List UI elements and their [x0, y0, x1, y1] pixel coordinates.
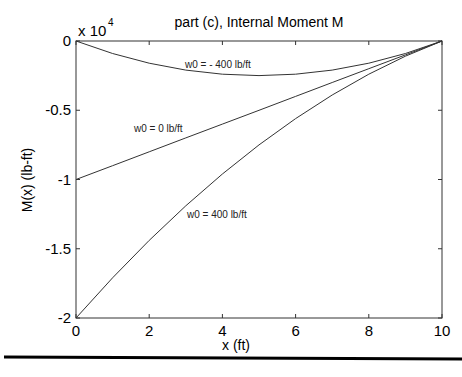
y-tick-label: -0.5 [45, 101, 71, 118]
chart: part (c), Internal Moment M x 10 4 02468… [0, 0, 462, 377]
curve-labels: w0 = - 400 lb/ftw0 = 0 lb/ftw0 = 400 lb/… [133, 59, 251, 220]
y-multiplier-exponent: 4 [108, 17, 114, 28]
series-label: w0 = - 400 lb/ft [184, 59, 251, 70]
series-line [76, 41, 442, 76]
chart-title: part (c), Internal Moment M [175, 14, 344, 30]
bottom-rule [4, 357, 462, 359]
x-tick-label: 2 [145, 322, 153, 339]
x-tick-label: 0 [72, 322, 80, 339]
y-tick-label: -1 [58, 171, 71, 188]
series-line [76, 41, 442, 318]
series-label: w0 = 0 lb/ft [133, 123, 183, 134]
x-axis-label: x (ft) [222, 337, 250, 353]
x-tick-label: 10 [434, 322, 451, 339]
y-multiplier-label: x 10 [78, 22, 106, 39]
x-tick-label: 8 [365, 322, 373, 339]
plot-area [76, 41, 442, 318]
x-tick-label: 6 [291, 322, 299, 339]
y-tick-label: 0 [63, 32, 71, 49]
y-multiplier: x 10 4 [78, 17, 114, 39]
y-tick-label: -1.5 [45, 240, 71, 257]
curves [76, 41, 442, 318]
series-line [76, 41, 442, 180]
y-ticks: 0-0.5-1-1.5-2 [45, 32, 442, 326]
x-ticks: 0246810 [72, 41, 451, 339]
y-axis-label: M(x) (lb-ft) [19, 148, 35, 213]
y-tick-label: -2 [58, 309, 71, 326]
series-label: w0 = 400 lb/ft [186, 209, 247, 220]
